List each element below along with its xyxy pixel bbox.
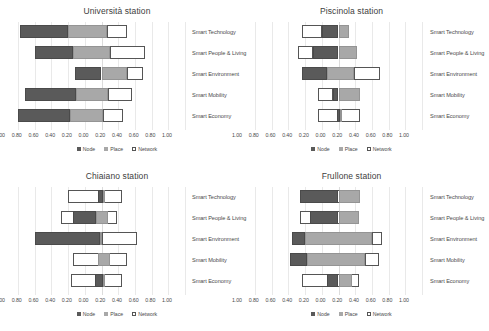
legend-item-place[interactable]: Place: [104, 311, 123, 317]
legend-item-network[interactable]: Network: [132, 146, 157, 152]
x-tick-label: 0.60: [265, 132, 275, 138]
category-label: Smart Economy: [192, 278, 231, 284]
bar-segment-network[interactable]: [103, 109, 123, 122]
bar-row[interactable]: [255, 211, 422, 224]
bar-segment-network[interactable]: [102, 232, 137, 245]
x-tick-label: 0.20: [299, 132, 309, 138]
bar-segment-network[interactable]: [107, 25, 127, 38]
bar-segment-network[interactable]: [108, 88, 131, 101]
bar-segment-node[interactable]: [73, 211, 96, 224]
bar-segment-node[interactable]: [313, 46, 338, 59]
bar-row[interactable]: [255, 253, 422, 266]
legend-item-place[interactable]: Place: [339, 311, 358, 317]
plot-area: [18, 187, 185, 295]
bar-segment-network[interactable]: [372, 232, 382, 245]
category-label: Smart Technology: [430, 29, 474, 35]
legend-item-place[interactable]: Place: [104, 146, 123, 152]
bar-segment-node[interactable]: [25, 88, 77, 101]
legend-item-place[interactable]: Place: [339, 146, 358, 152]
bar-segment-node[interactable]: [18, 109, 70, 122]
bar-segment-node[interactable]: [35, 46, 73, 59]
bar-segment-network[interactable]: [365, 253, 378, 266]
bar-segment-place[interactable]: [100, 232, 102, 245]
legend-item-node[interactable]: Node: [311, 146, 329, 152]
legend-item-node[interactable]: Node: [77, 146, 95, 152]
bar-row[interactable]: [255, 274, 422, 287]
legend-swatch-place-icon: [339, 147, 343, 151]
bar-row[interactable]: [18, 190, 185, 203]
bar-segment-node[interactable]: [322, 25, 339, 38]
legend-item-network[interactable]: Network: [367, 146, 392, 152]
bar-segment-place[interactable]: [305, 232, 372, 245]
bar-row[interactable]: [255, 88, 422, 101]
legend-item-node[interactable]: Node: [311, 311, 329, 317]
bar-segment-node[interactable]: [98, 190, 103, 203]
bar-row[interactable]: [255, 232, 422, 245]
legend-swatch-place-icon: [104, 147, 108, 151]
bar-segment-network[interactable]: [68, 190, 121, 203]
bar-row[interactable]: [255, 25, 422, 38]
bar-segment-network[interactable]: [298, 46, 313, 59]
bar-row[interactable]: [18, 25, 185, 38]
bar-segment-place[interactable]: [73, 46, 110, 59]
bar-segment-node[interactable]: [35, 232, 100, 245]
bar-segment-node[interactable]: [300, 190, 338, 203]
bar-segment-node[interactable]: [302, 67, 327, 80]
bar-row[interactable]: [18, 253, 185, 266]
bar-segment-place[interactable]: [96, 211, 108, 224]
bar-segment-place[interactable]: [339, 25, 349, 38]
bar-segment-node[interactable]: [327, 274, 339, 287]
legend-item-network[interactable]: Network: [132, 311, 157, 317]
bar-segment-place[interactable]: [98, 253, 110, 266]
bar-segment-network[interactable]: [354, 67, 381, 80]
bar-segment-network[interactable]: [318, 88, 333, 101]
x-tick-label: 1.00: [232, 132, 242, 138]
bar-segment-place[interactable]: [103, 274, 105, 287]
legend-item-node[interactable]: Node: [77, 311, 95, 317]
bar-segment-node[interactable]: [292, 232, 305, 245]
chart-panel-chiaiano: Chiaiano station 1.000.800.600.400.200.0…: [0, 165, 234, 331]
x-tick-label: 0.20: [95, 297, 105, 303]
bar-segment-place[interactable]: [68, 25, 106, 38]
bar-row[interactable]: [255, 190, 422, 203]
bar-segment-node[interactable]: [333, 88, 338, 101]
bar-row[interactable]: [18, 109, 185, 122]
bar-row[interactable]: [18, 211, 185, 224]
bar-segment-place[interactable]: [339, 46, 357, 59]
legend-swatch-network-icon: [367, 312, 371, 316]
bar-segment-node[interactable]: [20, 25, 68, 38]
bar-segment-network[interactable]: [110, 46, 145, 59]
bar-segment-place[interactable]: [339, 274, 352, 287]
bar-segment-place[interactable]: [102, 67, 127, 80]
legend-swatch-node-icon: [77, 312, 81, 316]
bar-row[interactable]: [255, 67, 422, 80]
bar-segment-place[interactable]: [339, 211, 359, 224]
bar-segment-place[interactable]: [103, 190, 105, 203]
bar-segment-node[interactable]: [310, 211, 338, 224]
bar-row[interactable]: [18, 232, 185, 245]
legend-item-network[interactable]: Network: [367, 311, 392, 317]
bar-segment-place[interactable]: [70, 109, 103, 122]
category-label: Smart Mobility: [430, 92, 465, 98]
bar-row[interactable]: [18, 46, 185, 59]
bar-segment-node[interactable]: [290, 253, 307, 266]
bar-segment-network[interactable]: [127, 67, 144, 80]
bar-segment-node[interactable]: [337, 109, 340, 122]
x-tick-label: 0.60: [129, 297, 139, 303]
bar-segment-place[interactable]: [307, 253, 365, 266]
bar-row[interactable]: [18, 88, 185, 101]
bar-segment-place[interactable]: [339, 190, 361, 203]
legend-label: Node: [317, 311, 329, 317]
bar-segment-place[interactable]: [339, 88, 361, 101]
bar-row[interactable]: [255, 46, 422, 59]
bar-segment-node[interactable]: [95, 274, 103, 287]
bar-segment-node[interactable]: [75, 67, 102, 80]
bar-row[interactable]: [255, 109, 422, 122]
bar-segment-place[interactable]: [340, 109, 342, 122]
x-tick-label: 0.80: [382, 132, 392, 138]
bar-segment-place[interactable]: [76, 88, 108, 101]
bar-row[interactable]: [18, 274, 185, 287]
bar-row[interactable]: [18, 67, 185, 80]
bar-segment-network[interactable]: [302, 25, 322, 38]
bar-segment-place[interactable]: [327, 67, 354, 80]
